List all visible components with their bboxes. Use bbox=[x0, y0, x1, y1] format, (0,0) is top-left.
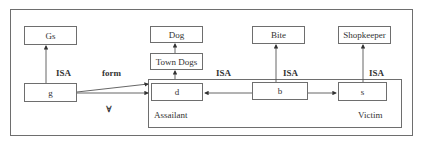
label-form: form bbox=[102, 68, 121, 78]
node-shopkeeper: Shopkeeper bbox=[338, 26, 391, 44]
node-b: b bbox=[252, 82, 308, 100]
node-dog: Dog bbox=[150, 26, 203, 43]
node-s: s bbox=[338, 82, 387, 101]
label-isa-d: ISA bbox=[216, 68, 231, 78]
label-isa-g: ISA bbox=[56, 68, 71, 78]
label-forall: ∀ bbox=[106, 104, 112, 114]
node-bite: Bite bbox=[252, 26, 305, 44]
node-gs: Gs bbox=[24, 26, 77, 45]
node-town-dogs: Town Dogs bbox=[150, 53, 203, 70]
node-d: d bbox=[151, 83, 203, 101]
label-victim: Victim bbox=[358, 110, 382, 120]
label-assailant: Assailant bbox=[154, 110, 188, 120]
label-isa-s: ISA bbox=[369, 68, 384, 78]
label-isa-b: ISA bbox=[283, 68, 298, 78]
node-g: g bbox=[24, 83, 77, 102]
